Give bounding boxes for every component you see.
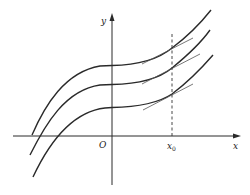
lower-curve	[33, 55, 213, 177]
lower-tangent-line	[143, 84, 193, 110]
origin-label: O	[99, 140, 107, 150]
y-axis-label: y	[100, 16, 107, 26]
middle-tangent-line	[142, 54, 200, 84]
upper-curve	[32, 10, 211, 135]
upper-tangent-line	[142, 38, 193, 64]
x0-label: x0	[167, 141, 176, 152]
y-axis-arrow-icon	[110, 13, 115, 21]
diagram-figure: y O x0 x	[0, 0, 250, 195]
x0-label-subscript: 0	[172, 145, 176, 152]
x-axis-label: x	[233, 141, 238, 151]
x-axis-arrow-icon	[233, 134, 241, 139]
